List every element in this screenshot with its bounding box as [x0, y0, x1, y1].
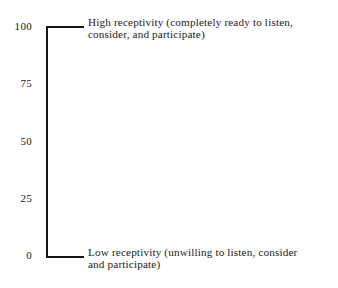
tick-label-100: 100 [0, 21, 32, 32]
low-anchor-line-2: and participate) [88, 258, 332, 270]
tick-label-75: 75 [0, 78, 32, 89]
tick-label-0: 0 [0, 250, 32, 261]
axis-vertical-line [46, 26, 48, 258]
high-anchor-line-2: consider, and participate) [88, 28, 332, 40]
axis-top-cap [46, 26, 84, 28]
axis-bottom-cap [46, 256, 84, 258]
low-receptivity-anchor-label: Low receptivity (unwilling to listen, co… [88, 246, 332, 271]
high-receptivity-anchor-label: High receptivity (completely ready to li… [88, 16, 332, 41]
tick-label-50: 50 [0, 136, 32, 147]
tick-label-25: 25 [0, 193, 32, 204]
low-anchor-line-1: Low receptivity (unwilling to listen, co… [88, 246, 332, 258]
high-anchor-line-1: High receptivity (completely ready to li… [88, 16, 332, 28]
receptivity-scale-figure: 100 75 50 25 0 High receptivity (complet… [0, 0, 338, 288]
